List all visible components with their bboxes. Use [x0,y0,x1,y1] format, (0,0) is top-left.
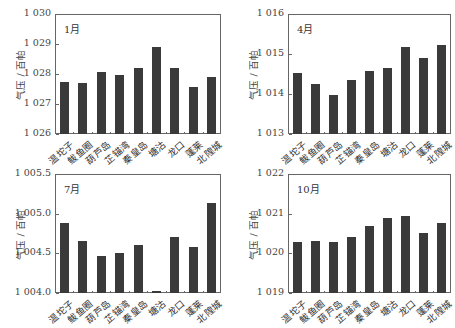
x-tick-mark [360,291,361,293]
bar-温坨子 [60,82,69,134]
x-tick-mark [342,291,343,293]
y-tick-mark [56,253,59,254]
y-tick-label: 1 028 [3,67,51,78]
y-tick-label: 1 015 [236,47,284,58]
y-tick-label: 1 020 [236,246,284,257]
bar-鲅鱼圈 [78,241,87,293]
y-tick-mark [56,14,59,15]
x-tick-mark [147,291,148,293]
y-axis-label: 气压 / 百帕 [246,30,260,120]
y-tick-label: 1 030 [3,7,51,18]
bar-芷锚湾 [115,75,124,134]
x-tick-mark [166,291,167,293]
x-tick-mark [184,132,185,134]
y-tick-label: 1 029 [3,37,51,48]
y-axis-label: 气压 / 百帕 [246,190,260,280]
y-tick-label: 1 016 [236,7,284,18]
bar-鲅鱼圈 [311,241,320,293]
y-tick-mark [289,174,292,175]
bar-鲅鱼圈 [78,83,87,134]
y-tick-label: 1 005.0 [3,207,51,218]
bar-秦皇岛 [134,245,143,293]
x-tick-mark [415,132,416,134]
bar-芷锚湾 [347,80,356,134]
y-tick-label: 1 013 [236,127,284,138]
bar-北隍城 [437,223,446,293]
x-tick-mark [379,132,380,134]
bar-鲅鱼圈 [311,84,320,134]
bar-葫芦岛 [97,72,106,134]
bar-芷锚湾 [347,237,356,293]
x-tick-mark [92,291,93,293]
y-tick-mark [289,134,292,135]
y-axis-label: 气压 / 百帕 [13,190,27,280]
x-tick-mark [166,132,167,134]
month-label: 4月 [297,21,313,36]
bar-龙口 [170,237,179,293]
x-tick-mark [129,291,130,293]
bar-龙口 [401,47,410,134]
x-tick-mark [73,132,74,134]
x-tick-mark [397,291,398,293]
x-tick-mark [324,291,325,293]
x-tick-mark [397,132,398,134]
y-tick-mark [56,44,59,45]
bar-葫芦岛 [97,256,106,293]
x-tick-mark [110,291,111,293]
bar-塘沽 [152,291,161,293]
y-tick-mark [289,214,292,215]
bar-秦皇岛 [365,71,374,134]
y-tick-mark [56,134,59,135]
bar-芷锚湾 [115,253,124,293]
x-tick-mark [306,132,307,134]
bar-蓬莱 [419,58,428,134]
bar-龙口 [170,68,179,134]
x-tick-mark [73,291,74,293]
bar-秦皇岛 [365,226,374,293]
bar-塘沽 [383,68,392,134]
x-tick-mark [184,291,185,293]
x-tick-mark [415,291,416,293]
y-tick-mark [289,54,292,55]
y-tick-label: 1 027 [3,97,51,108]
x-tick-mark [203,291,204,293]
y-tick-mark [289,293,292,294]
bar-蓬莱 [189,247,198,293]
x-tick-mark [360,132,361,134]
bar-北隍城 [207,77,216,134]
x-tick-mark [110,132,111,134]
y-tick-mark [56,174,59,175]
x-tick-mark [342,132,343,134]
month-label: 10月 [297,181,320,196]
x-tick-mark [203,132,204,134]
y-tick-label: 1 005.5 [3,167,51,178]
x-tick-mark [92,132,93,134]
bar-蓬莱 [419,233,428,293]
bar-葫芦岛 [329,242,338,293]
x-tick-mark [379,291,380,293]
y-tick-label: 1 004.5 [3,246,51,257]
x-tick-mark [129,132,130,134]
month-label: 7月 [64,181,80,196]
bar-葫芦岛 [329,95,338,134]
y-tick-mark [56,74,59,75]
y-tick-label: 1 004.0 [3,286,51,297]
bar-温坨子 [60,223,69,293]
y-tick-label: 1 026 [3,127,51,138]
x-tick-mark [147,132,148,134]
y-tick-mark [56,104,59,105]
x-tick-mark [324,132,325,134]
y-tick-mark [56,214,59,215]
bar-温坨子 [293,242,302,293]
bar-北隍城 [437,45,446,134]
y-tick-label: 1 022 [236,167,284,178]
x-tick-mark [433,291,434,293]
bar-北隍城 [207,203,216,293]
y-tick-label: 1 021 [236,207,284,218]
bar-温坨子 [293,73,302,134]
y-tick-mark [289,94,292,95]
bar-蓬莱 [189,87,198,134]
x-tick-mark [433,132,434,134]
y-tick-mark [289,253,292,254]
bar-塘沽 [383,218,392,293]
